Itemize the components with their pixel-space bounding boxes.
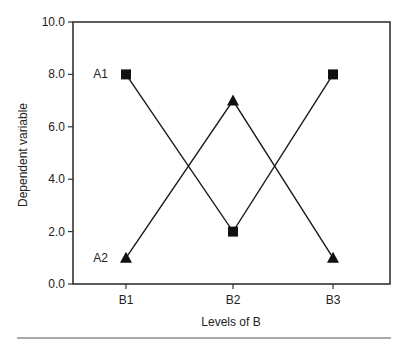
y-tick-label: 0.0 xyxy=(48,277,65,291)
plot-frame xyxy=(73,22,390,284)
triangle-marker xyxy=(120,252,132,263)
series-a2: A2 xyxy=(93,95,339,265)
series-group: A1A2 xyxy=(93,67,339,264)
triangle-marker xyxy=(227,95,239,106)
square-marker xyxy=(121,69,131,79)
interaction-plot: 0.02.04.06.08.010.0 B1B2B3 A1A2 Dependen… xyxy=(0,0,412,352)
y-tick-label: 6.0 xyxy=(48,120,65,134)
x-tick-label: B1 xyxy=(119,293,134,307)
plot-border xyxy=(73,22,390,284)
y-tick-label: 8.0 xyxy=(48,67,65,81)
y-axis-ticks: 0.02.04.06.08.010.0 xyxy=(42,15,73,291)
triangle-marker xyxy=(327,252,339,263)
x-axis-ticks: B1B2B3 xyxy=(119,284,341,307)
y-tick-label: 4.0 xyxy=(48,172,65,186)
y-axis-label: Dependent variable xyxy=(16,103,30,207)
y-tick-label: 10.0 xyxy=(42,15,66,29)
series-label: A1 xyxy=(93,67,108,81)
series-a1: A1 xyxy=(93,67,338,236)
x-tick-label: B2 xyxy=(226,293,241,307)
y-tick-label: 2.0 xyxy=(48,225,65,239)
square-marker xyxy=(328,69,338,79)
series-label: A2 xyxy=(93,251,108,265)
x-tick-label: B3 xyxy=(326,293,341,307)
square-marker xyxy=(228,227,238,237)
x-axis-label: Levels of B xyxy=(201,315,260,329)
